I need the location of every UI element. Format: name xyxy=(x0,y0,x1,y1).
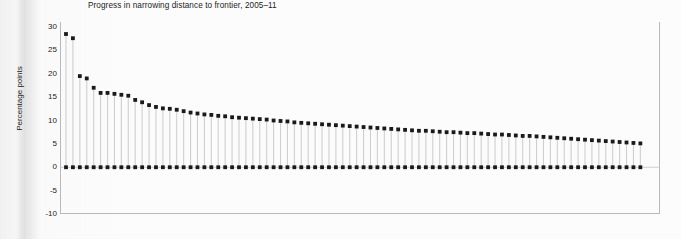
baseline-point-marker xyxy=(168,165,172,169)
data-point-marker xyxy=(500,133,504,137)
baseline-point-marker xyxy=(583,165,587,169)
data-point-marker xyxy=(106,91,110,95)
baseline-point-marker xyxy=(376,165,380,169)
data-point-marker xyxy=(493,133,497,137)
data-point-marker xyxy=(230,115,234,119)
baseline-point-marker xyxy=(396,165,400,169)
data-point-marker xyxy=(126,94,130,98)
data-point-marker xyxy=(555,136,559,140)
data-point-marker xyxy=(465,131,469,135)
baseline-point-marker xyxy=(493,165,497,169)
data-point-marker xyxy=(216,114,220,118)
baseline-point-marker xyxy=(126,165,130,169)
data-point-marker xyxy=(85,77,89,81)
data-point-marker xyxy=(223,114,227,118)
baseline-point-marker xyxy=(472,165,476,169)
baseline-point-marker xyxy=(203,165,207,169)
baseline-point-marker xyxy=(106,165,110,169)
baseline-point-marker xyxy=(216,165,220,169)
baseline-point-marker xyxy=(625,165,629,169)
data-point-marker xyxy=(154,105,158,109)
data-point-marker xyxy=(244,116,248,120)
baseline-point-marker xyxy=(445,165,449,169)
data-point-marker xyxy=(604,139,608,143)
baseline-point-marker xyxy=(355,165,359,169)
data-point-marker xyxy=(542,135,546,139)
y-axis-tick-20: 20 xyxy=(17,69,57,78)
data-point-marker xyxy=(99,91,103,95)
data-point-marker xyxy=(459,131,463,135)
data-point-marker xyxy=(237,116,241,120)
data-point-marker xyxy=(203,113,207,117)
data-point-marker xyxy=(113,92,117,96)
baseline-point-marker xyxy=(576,165,580,169)
baseline-point-marker xyxy=(528,165,532,169)
baseline-point-marker xyxy=(292,165,296,169)
data-point-marker xyxy=(320,122,324,126)
baseline-point-marker xyxy=(306,165,310,169)
data-point-marker xyxy=(562,136,566,140)
baseline-point-marker xyxy=(410,165,414,169)
baseline-point-marker xyxy=(286,165,290,169)
baseline-point-marker xyxy=(348,165,352,169)
data-point-marker xyxy=(479,132,483,136)
baseline-point-marker xyxy=(507,165,511,169)
data-point-marker xyxy=(403,128,407,132)
data-point-marker xyxy=(355,125,359,129)
data-point-marker xyxy=(189,111,193,115)
baseline-point-marker xyxy=(479,165,483,169)
baseline-point-marker xyxy=(438,165,442,169)
baseline-point-marker xyxy=(175,165,179,169)
data-point-marker xyxy=(611,140,615,144)
baseline-point-marker xyxy=(611,165,615,169)
data-point-marker xyxy=(597,139,601,143)
data-point-marker xyxy=(382,127,386,131)
data-point-marker xyxy=(410,128,414,132)
baseline-point-marker xyxy=(403,165,407,169)
baseline-point-marker xyxy=(569,165,573,169)
baseline-point-marker xyxy=(334,165,338,169)
baseline-point-marker xyxy=(604,165,608,169)
data-point-marker xyxy=(445,130,449,134)
data-point-marker xyxy=(64,32,68,36)
baseline-point-marker xyxy=(237,165,241,169)
y-axis-tick-30: 30 xyxy=(17,22,57,31)
data-point-marker xyxy=(431,129,435,133)
baseline-point-marker xyxy=(542,165,546,169)
baseline-point-marker xyxy=(258,165,262,169)
data-point-marker xyxy=(334,123,338,127)
y-axis-tick-neg5: -5 xyxy=(17,186,57,195)
y-axis-tick-25: 25 xyxy=(17,45,57,54)
data-point-marker xyxy=(279,119,283,123)
data-point-marker xyxy=(133,98,137,102)
baseline-point-marker xyxy=(113,165,117,169)
baseline-point-marker xyxy=(452,165,456,169)
data-point-marker xyxy=(78,74,82,78)
data-point-marker xyxy=(632,141,636,145)
y-axis-tick-5: 5 xyxy=(17,139,57,148)
data-point-marker xyxy=(119,93,123,97)
baseline-point-marker xyxy=(133,165,137,169)
baseline-point-marker xyxy=(369,165,373,169)
data-point-marker xyxy=(265,118,269,122)
baseline-point-marker xyxy=(223,165,227,169)
baseline-point-marker xyxy=(590,165,594,169)
data-point-marker xyxy=(514,134,518,138)
data-point-marker xyxy=(71,36,75,40)
baseline-point-marker xyxy=(140,165,144,169)
baseline-point-marker xyxy=(500,165,504,169)
y-axis-tick-10: 10 xyxy=(17,116,57,125)
y-axis-tick-neg10: -10 xyxy=(17,209,57,218)
baseline-point-marker xyxy=(251,165,255,169)
baseline-point-marker xyxy=(99,165,103,169)
baseline-point-marker xyxy=(64,165,68,169)
data-point-marker xyxy=(396,127,400,131)
data-point-marker xyxy=(569,137,573,141)
lollipop-plot xyxy=(60,20,660,216)
baseline-point-marker xyxy=(417,165,421,169)
data-point-marker xyxy=(175,108,179,112)
data-point-marker xyxy=(389,127,393,131)
baseline-point-marker xyxy=(327,165,331,169)
data-point-marker xyxy=(161,106,165,110)
baseline-point-marker xyxy=(313,165,317,169)
